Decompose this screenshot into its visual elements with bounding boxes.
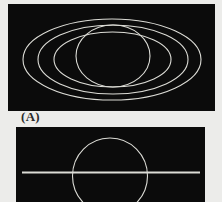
figure-canvas (0, 0, 222, 202)
top-panel-background (8, 4, 215, 111)
figure-label: (A) (21, 110, 40, 124)
